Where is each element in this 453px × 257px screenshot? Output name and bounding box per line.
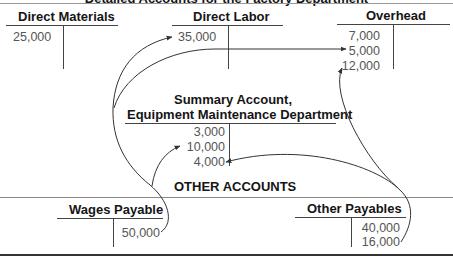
- top-rule: [0, 3, 453, 4]
- debit-value: 5,000: [349, 44, 380, 59]
- credit-value: 50,000: [122, 226, 160, 241]
- account-divider: [63, 25, 64, 69]
- account-title: Overhead: [366, 8, 426, 23]
- account-divider: [393, 24, 394, 69]
- account-rule: [6, 25, 118, 26]
- debit-value: 4,000: [194, 155, 225, 170]
- bottom-rule: [0, 254, 453, 256]
- account-title-line2: Equipment Maintenance Department: [127, 107, 352, 122]
- credit-value: 40,000: [362, 221, 400, 236]
- section-rule: [0, 197, 453, 198]
- debit-value: 3,000: [194, 125, 225, 140]
- account-title: Direct Materials: [18, 9, 115, 24]
- account-divider: [113, 218, 114, 247]
- arrow-other-payables-to-overhead: [340, 68, 398, 188]
- debit-value: 12,000: [342, 59, 380, 74]
- debit-value: 25,000: [13, 30, 51, 45]
- account-rule: [125, 123, 336, 124]
- account-divider: [229, 123, 230, 166]
- debit-value: 7,000: [349, 29, 380, 44]
- account-rule: [57, 218, 163, 219]
- credit-value: 16,000: [362, 235, 400, 250]
- debit-value: 35,000: [178, 30, 216, 45]
- account-title: Wages Payable: [69, 202, 163, 217]
- account-title-line1: Summary Account,: [174, 92, 292, 107]
- section-label-other-accounts: OTHER ACCOUNTS: [174, 179, 296, 194]
- debit-value: 10,000: [187, 140, 225, 155]
- account-divider: [228, 25, 229, 69]
- account-divider: [351, 217, 352, 247]
- account-title: Direct Labor: [193, 9, 270, 24]
- account-title: Other Payables: [307, 201, 402, 216]
